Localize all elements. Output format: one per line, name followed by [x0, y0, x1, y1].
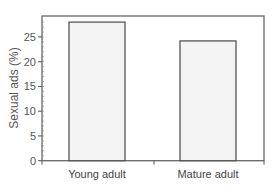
bars [69, 22, 236, 161]
bar-mature-adult [180, 41, 236, 161]
y-tick-label: 15 [24, 80, 36, 92]
bar-chart: 0510152025 Young adultMature adult Sexua… [0, 0, 280, 194]
y-axis-ticks: 0510152025 [24, 31, 42, 167]
y-tick-label: 25 [24, 31, 36, 43]
x-category-label: Mature adult [177, 168, 238, 180]
x-axis-ticks: Young adultMature adult [42, 161, 264, 180]
y-tick-label: 5 [30, 130, 36, 142]
bar-young-adult [69, 22, 125, 161]
y-axis-title: Sexual ads (%) [7, 47, 21, 128]
x-category-label: Young adult [68, 168, 126, 180]
y-tick-label: 0 [30, 155, 36, 167]
y-tick-label: 10 [24, 105, 36, 117]
y-tick-label: 20 [24, 56, 36, 68]
